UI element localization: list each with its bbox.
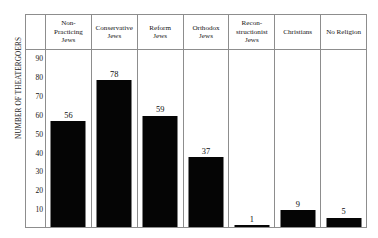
category-header-cell: Orthodox Jews: [184, 15, 230, 49]
bar-column: 1: [229, 50, 275, 227]
bar: [97, 80, 132, 227]
y-axis-title: NUMBER OF THEATERGOERS: [15, 23, 23, 153]
bars-area: 56 78 59 37 1: [46, 50, 366, 227]
y-tick-label: 90: [35, 55, 43, 63]
y-tick-label: 50: [35, 131, 43, 139]
bar-value-label: 56: [64, 111, 72, 120]
bar-value-label: 5: [341, 207, 345, 216]
bar-value-label: 1: [250, 215, 254, 224]
chart-title: [0, 0, 378, 1]
bar-value-label: 9: [296, 200, 300, 209]
chart-frame: Non- Practicing Jews Conservative Jews R…: [25, 14, 367, 228]
category-header-cell: No Religion: [321, 15, 366, 49]
bar: [234, 225, 269, 227]
y-tick-label: 40: [35, 150, 43, 158]
bar-column: 78: [92, 50, 138, 227]
bar: [51, 121, 86, 227]
category-header-cell: Recon- structionist Jews: [229, 15, 275, 49]
bar: [189, 157, 224, 227]
bar: [326, 218, 361, 227]
bar-chart-figure: NUMBER OF THEATERGOERS Non- Practicing J…: [0, 0, 378, 238]
bar-column: 59: [138, 50, 184, 227]
bar: [143, 116, 178, 227]
category-header-cell: Christians: [275, 15, 321, 49]
y-tick-label: 70: [35, 93, 43, 101]
bar-column: 56: [46, 50, 92, 227]
plot-body: 90 80 70 60 50 40 30 20 10 56 78: [26, 50, 366, 227]
y-tick-label: 30: [35, 168, 43, 176]
y-tick-label: 10: [35, 206, 43, 214]
bar-column: 37: [184, 50, 230, 227]
bar-value-label: 78: [110, 70, 118, 79]
bar-column: 5: [321, 50, 366, 227]
bar: [280, 210, 315, 227]
header-axis-spacer: [26, 15, 46, 49]
category-header-cell: Reform Jews: [138, 15, 184, 49]
bar-value-label: 59: [156, 105, 164, 114]
y-tick-label: 80: [35, 74, 43, 82]
y-axis: 90 80 70 60 50 40 30 20 10: [26, 50, 46, 227]
category-header-cell: Non- Practicing Jews: [46, 15, 92, 49]
bar-column: 9: [275, 50, 321, 227]
category-header-cell: Conservative Jews: [92, 15, 138, 49]
bar-value-label: 37: [202, 147, 210, 156]
category-header-row: Non- Practicing Jews Conservative Jews R…: [26, 15, 366, 50]
y-tick-label: 60: [35, 112, 43, 120]
y-tick-label: 20: [35, 187, 43, 195]
